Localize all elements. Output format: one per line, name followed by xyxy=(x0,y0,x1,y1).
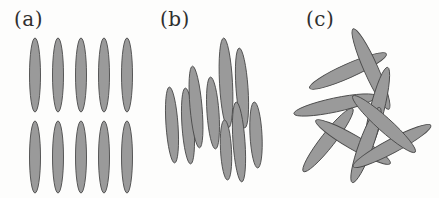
rod-particle xyxy=(76,38,87,112)
rod-particle xyxy=(163,87,180,164)
rod-particle xyxy=(53,121,64,193)
rod-particle xyxy=(30,38,41,112)
rod-particle xyxy=(248,102,263,169)
rod-particle xyxy=(122,121,133,193)
panel-b-rods xyxy=(146,0,292,198)
panel-b: (b) xyxy=(146,0,292,198)
panel-a-rods xyxy=(0,0,146,198)
liquid-crystal-phases-figure: (a) (b) (c) xyxy=(0,0,439,198)
rod-particle xyxy=(122,38,133,112)
rod-particle xyxy=(53,38,64,112)
rod-particle xyxy=(99,121,110,193)
rod-particle xyxy=(99,38,110,112)
panel-a: (a) xyxy=(0,0,146,198)
rod-particle xyxy=(217,38,235,129)
panel-c: (c) xyxy=(292,0,439,198)
panel-c-rods xyxy=(292,0,439,198)
rod-particle xyxy=(219,120,233,180)
rod-particle xyxy=(76,121,87,193)
rod-particle xyxy=(30,121,41,193)
rod-particle xyxy=(205,77,222,150)
